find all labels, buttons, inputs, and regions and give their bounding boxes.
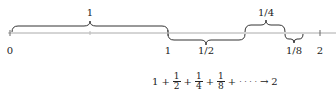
tick-label-2: 2 [317, 46, 323, 56]
fraction-eighth: 1 8 [217, 72, 225, 91]
ellipsis: · · · · [239, 77, 257, 86]
tick-label-0: 0 [7, 46, 13, 56]
tick-label-1: 1 [165, 46, 171, 56]
brace-half [168, 34, 245, 45]
denominator: 2 [173, 82, 181, 91]
denominator: 4 [195, 82, 203, 91]
series-formula: 1 + 1 2 + 1 4 + 1 8 + · · · · → 2 [152, 72, 278, 91]
formula-lead: 1 [152, 76, 158, 87]
plus-sign: + [184, 76, 192, 87]
plus-sign: + [161, 76, 169, 87]
brace-label-quarter: 1/4 [258, 8, 274, 18]
brace-label-one: 1 [87, 8, 93, 18]
fraction-half: 1 2 [173, 72, 181, 91]
brace-label-half: 1/2 [198, 46, 214, 56]
plus-sign: + [228, 76, 236, 87]
denominator: 8 [217, 82, 225, 91]
formula-limit: 2 [271, 76, 277, 87]
brace-label-eighth: 1/8 [286, 46, 302, 56]
plus-sign: + [206, 76, 214, 87]
brace-one [12, 21, 168, 32]
fraction-quarter: 1 4 [195, 72, 203, 91]
brace-eighth [285, 34, 303, 43]
arrow-icon: → [260, 76, 268, 87]
brace-quarter [245, 20, 285, 32]
